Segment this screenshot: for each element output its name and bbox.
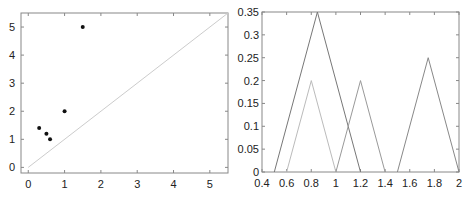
data-point xyxy=(37,126,41,130)
x-tick-label: 2 xyxy=(98,178,104,190)
x-tick-label: 2 xyxy=(456,177,462,189)
data-point xyxy=(63,109,67,113)
diagonal-line xyxy=(28,13,228,167)
y-tick-label: 0.2 xyxy=(244,75,259,87)
y-tick-label: 0.15 xyxy=(238,97,259,109)
triangle-2-line xyxy=(287,81,336,172)
y-tick-label: 0 xyxy=(9,161,15,173)
y-tick-label: 0.25 xyxy=(238,52,259,64)
data-point xyxy=(81,25,85,29)
y-tick-label: 4 xyxy=(9,49,15,61)
x-tick-label: 0.4 xyxy=(254,177,269,189)
triangle-4-line xyxy=(397,58,459,172)
x-tick-label: 1.4 xyxy=(377,177,392,189)
y-tick-label: 2 xyxy=(9,105,15,117)
figure: 012345012345 0.40.60.811.21.41.61.8200.0… xyxy=(0,0,472,197)
x-tick-label: 0.6 xyxy=(279,177,294,189)
y-tick-label: 0.1 xyxy=(244,120,259,132)
y-tick-label: 1 xyxy=(9,133,15,145)
data-point xyxy=(48,137,52,141)
x-tick-label: 1.2 xyxy=(353,177,368,189)
x-tick-label: 5 xyxy=(207,178,213,190)
y-tick-label: 3 xyxy=(9,77,15,89)
triangle-3-line xyxy=(336,81,385,172)
x-tick-label: 3 xyxy=(134,178,140,190)
y-tick-label: 5 xyxy=(9,21,15,33)
x-tick-label: 1 xyxy=(333,177,339,189)
data-point xyxy=(44,132,48,136)
x-tick-label: 1 xyxy=(62,178,68,190)
y-tick-label: 0 xyxy=(253,166,259,178)
x-tick-label: 0 xyxy=(25,178,31,190)
x-tick-label: 4 xyxy=(170,178,176,190)
triangle-line-chart: 0.40.60.811.21.41.61.8200.050.10.150.20.… xyxy=(238,6,462,189)
x-tick-label: 1.8 xyxy=(427,177,442,189)
triangle-1-line xyxy=(274,12,360,172)
y-tick-label: 0.35 xyxy=(238,6,259,18)
y-tick-label: 0.05 xyxy=(238,143,259,155)
x-tick-label: 1.6 xyxy=(402,177,417,189)
x-tick-label: 0.8 xyxy=(304,177,319,189)
y-tick-label: 0.3 xyxy=(244,29,259,41)
scatter-chart: 012345012345 xyxy=(9,13,228,190)
plot-frame xyxy=(262,12,459,172)
